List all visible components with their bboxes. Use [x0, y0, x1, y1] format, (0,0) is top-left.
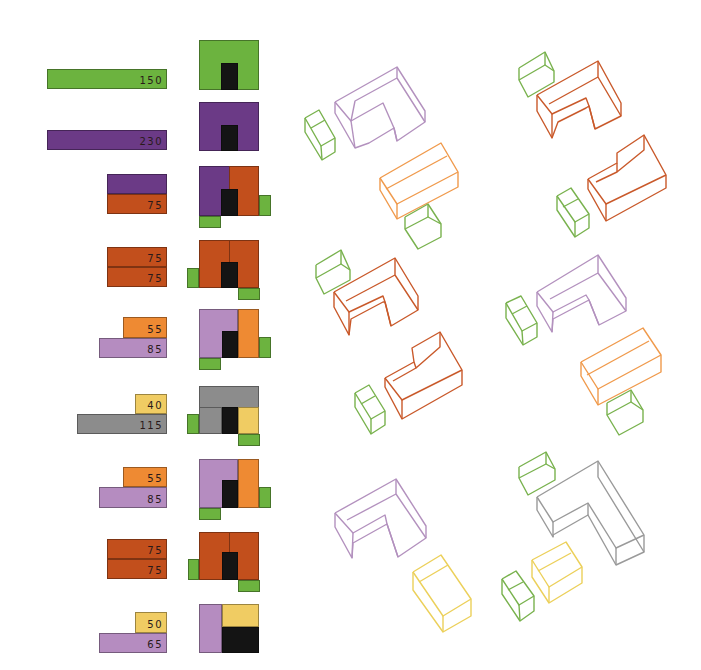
wire-rust-step-shape [385, 332, 462, 419]
wire-green-box [355, 385, 385, 434]
wire-green-box [519, 452, 555, 495]
wire-green-box [506, 296, 537, 345]
wire-orange-box [581, 328, 661, 405]
wire-lilac-l-shape [335, 479, 426, 558]
wire-rust-step-shape [588, 135, 666, 221]
wire-green-box [316, 250, 350, 294]
wire-green-box [502, 571, 534, 621]
wire-yellow-box [532, 542, 582, 603]
wire-lilac-l-shape [335, 67, 425, 148]
wire-green-box [305, 110, 335, 160]
wire-green-box [557, 188, 589, 237]
wire-lilac-l-shape [537, 255, 626, 332]
wire-green-box [519, 52, 554, 97]
wire-rust-l-shape [537, 61, 621, 138]
wire-green-box [405, 204, 441, 249]
wire-rust-l-shape [334, 258, 418, 335]
wire-yellow-box [413, 555, 471, 632]
wire-orange-box [380, 143, 458, 219]
axonometric-wireframes [0, 0, 701, 670]
